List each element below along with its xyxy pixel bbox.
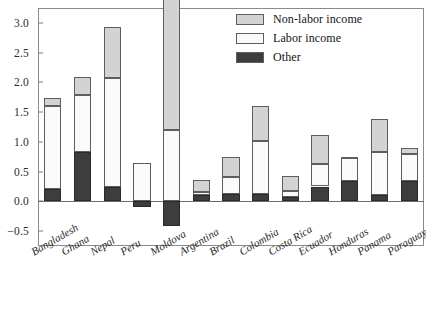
y-axis: 3.02.52.01.51.00.50.0−0.5 (0, 8, 36, 246)
bar-segment-non-labor-income[interactable] (252, 106, 269, 141)
legend-label: Non-labor income (273, 12, 362, 27)
legend-swatch (236, 14, 264, 25)
bar-segment-non-labor-income[interactable] (311, 135, 328, 164)
bar-segment-other[interactable] (311, 187, 328, 202)
y-tick-mark (38, 141, 43, 142)
bar-segment-other[interactable] (222, 194, 239, 201)
bar-segment-non-labor-income[interactable] (282, 176, 299, 191)
y-tick-mark (38, 171, 43, 172)
chart-legend: Non-labor incomeLabor incomeOther (236, 11, 416, 68)
bar-segment-other[interactable] (193, 195, 210, 202)
legend-label: Other (273, 50, 301, 65)
bar-segment-other[interactable] (163, 201, 180, 225)
legend-swatch (236, 52, 264, 63)
y-tick-label: 0.5 (14, 166, 29, 178)
bar-segment-labor-income[interactable] (341, 157, 358, 180)
bar-segment-labor-income[interactable] (311, 164, 328, 187)
y-tick-mark (38, 22, 43, 23)
y-tick-mark (38, 231, 43, 232)
bar-segment-non-labor-income[interactable] (163, 0, 180, 130)
bar-segment-labor-income[interactable] (401, 154, 418, 180)
bar-segment-other[interactable] (371, 195, 388, 202)
bar-segment-other[interactable] (341, 181, 358, 202)
bar-segment-labor-income[interactable] (74, 95, 91, 152)
y-tick-label: −0.5 (7, 225, 29, 237)
y-tick-label: 2.0 (14, 76, 29, 88)
bar-segment-labor-income[interactable] (193, 192, 210, 195)
y-tick-label: 3.0 (14, 17, 29, 29)
y-tick-mark (38, 201, 43, 202)
y-tick-mark (38, 112, 43, 113)
bar-segment-non-labor-income[interactable] (193, 180, 210, 192)
bar-group[interactable] (133, 8, 150, 246)
y-tick-label: 2.5 (14, 47, 29, 59)
y-tick-mark (38, 52, 43, 53)
bar-segment-non-labor-income[interactable] (341, 157, 358, 159)
bar-segment-other[interactable] (133, 201, 150, 206)
bar-segment-non-labor-income[interactable] (222, 157, 239, 177)
bar-segment-non-labor-income[interactable] (401, 148, 418, 155)
bar-segment-other[interactable] (282, 197, 299, 201)
x-axis-labels: BangladeshGhanaNepalPeruMoldovaArgentina… (38, 247, 424, 317)
bar-group[interactable] (193, 8, 210, 246)
y-tick-label: 1.5 (14, 106, 29, 118)
bar-group[interactable] (74, 8, 91, 246)
bar-segment-other[interactable] (104, 187, 121, 201)
bar-group[interactable] (163, 8, 180, 246)
bar-segment-labor-income[interactable] (252, 141, 269, 195)
y-tick-label: 1.0 (14, 136, 29, 148)
bar-segment-labor-income[interactable] (222, 177, 239, 194)
bar-segment-other[interactable] (252, 194, 269, 201)
legend-item[interactable]: Labor income (236, 30, 416, 46)
y-tick-mark (38, 82, 43, 83)
bar-segment-non-labor-income[interactable] (104, 27, 121, 78)
bar-segment-other[interactable] (44, 189, 61, 201)
legend-label: Labor income (273, 31, 341, 46)
legend-swatch (236, 33, 264, 44)
bar-segment-labor-income[interactable] (163, 130, 180, 201)
bar-group[interactable] (44, 8, 61, 246)
bar-segment-non-labor-income[interactable] (74, 77, 91, 95)
legend-item[interactable]: Other (236, 49, 416, 65)
legend-item[interactable]: Non-labor income (236, 11, 416, 27)
bar-segment-non-labor-income[interactable] (371, 119, 388, 152)
bar-segment-labor-income[interactable] (104, 78, 121, 187)
bar-segment-labor-income[interactable] (133, 163, 150, 201)
bar-segment-labor-income[interactable] (371, 152, 388, 195)
bar-group[interactable] (104, 8, 121, 246)
chart-container: 3.02.52.01.51.00.50.0−0.5 BangladeshGhan… (0, 0, 433, 318)
bar-segment-other[interactable] (74, 152, 91, 201)
y-tick-label: 0.0 (14, 195, 29, 207)
bar-segment-labor-income[interactable] (282, 191, 299, 197)
bar-segment-labor-income[interactable] (44, 106, 61, 189)
bar-segment-other[interactable] (401, 181, 418, 202)
bar-segment-non-labor-income[interactable] (44, 98, 61, 106)
